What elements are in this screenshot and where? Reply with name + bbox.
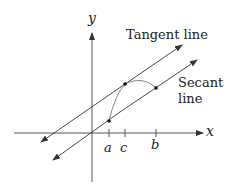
tick-label-a: a — [104, 141, 112, 154]
point-b — [154, 86, 158, 90]
y-axis-label: y — [88, 11, 96, 25]
tick-label-c: c — [120, 141, 127, 154]
mvt-diagram: y x a c b Tangent line Secant line — [0, 0, 230, 187]
point-a — [107, 119, 111, 123]
x-axis-label: x — [206, 124, 214, 138]
secant-label-line2: line — [178, 92, 202, 105]
point-c — [123, 82, 127, 86]
tangent-line — [112, 45, 182, 93]
tangent-line-label: Tangent line — [126, 28, 208, 41]
secant-label-line1: Secant — [178, 76, 223, 89]
tangent-line-lower — [41, 93, 112, 142]
tick-label-b: b — [151, 138, 159, 151]
